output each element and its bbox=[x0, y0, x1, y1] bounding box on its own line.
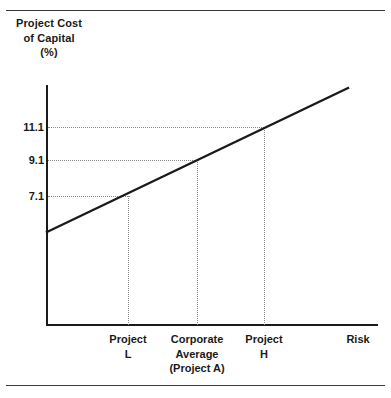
security-market-line bbox=[47, 88, 348, 232]
x-axis-label-risk: Risk bbox=[330, 332, 386, 347]
x-label-project-h: Project H bbox=[224, 332, 304, 361]
x-label-corporate-average-line-3: (Project A) bbox=[150, 361, 244, 376]
x-label-project-h-line-1: Project bbox=[224, 332, 304, 347]
x-label-project-h-line-2: H bbox=[224, 347, 304, 362]
chart-figure: Project Cost of Capital (%) 11.1 9.1 7.1… bbox=[0, 0, 391, 398]
